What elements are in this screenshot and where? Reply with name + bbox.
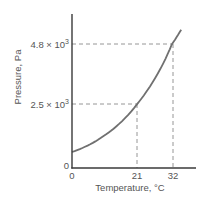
x-tick-0: 0 — [69, 170, 74, 181]
x-tick-32: 32 — [168, 170, 179, 181]
y-tick-4800: 4.8 × 103 — [30, 38, 69, 50]
y-tick-2500: 2.5 × 103 — [30, 98, 69, 110]
x-axis-label: Temperature, °C — [95, 182, 164, 193]
x-tick-21: 21 — [132, 170, 143, 181]
y-axis-label: Pressure, Pa — [12, 49, 23, 105]
pressure-curve — [72, 30, 181, 152]
vapor-pressure-chart: 4.8 × 103 2.5 × 103 0 0 21 32 Temperatur… — [0, 0, 208, 204]
y-tick-0: 0 — [64, 160, 69, 171]
guide-lines — [72, 44, 173, 168]
